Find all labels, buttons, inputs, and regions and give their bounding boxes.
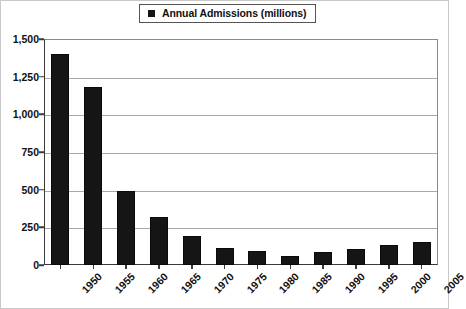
y-axis-tick-label: 0 [3,260,39,271]
x-axis-tick-label: 1970 [212,271,236,295]
bar [150,217,168,265]
y-axis-tick-label: 250 [3,222,39,233]
bar [216,248,234,265]
x-axis-tick-label: 1975 [244,271,268,295]
y-axis-tick-label: 1,500 [3,34,39,45]
bar [281,256,299,265]
x-axis-tick-label: 1995 [376,271,400,295]
x-axis-tick-label: 1965 [179,271,203,295]
x-axis-tick-label: 1960 [146,271,170,295]
y-axis-tick-label: 1,250 [3,71,39,82]
x-axis-tick-label: 1990 [343,271,367,295]
bar [314,252,332,265]
bars-layer [44,39,438,265]
x-axis-tick-label: 1955 [113,271,137,295]
bar [183,236,201,265]
y-axis-tick-label: 750 [3,147,39,158]
legend-entry-annual-admissions: Annual Admissions (millions) [148,8,306,19]
y-axis-labels: 02505007501,0001,2501,500 [1,39,39,265]
bar [84,87,102,265]
bar [248,251,266,265]
x-axis-tick-label: 1950 [80,271,104,295]
chart-legend: Annual Admissions (millions) [139,4,316,23]
bar [347,249,365,265]
x-axis-tick-label: 1980 [277,271,301,295]
bar [117,191,135,265]
x-axis-tick-label: 2005 [441,271,465,295]
legend-label: Annual Admissions (millions) [162,8,306,19]
x-axis-tick-label: 2000 [409,271,433,295]
bar [380,245,398,265]
x-axis-labels: 1950195519601965197019751980198519901995… [44,269,438,309]
bar [51,54,69,265]
bar [413,242,431,265]
x-axis-tick-label: 1985 [310,271,334,295]
legend-swatch-icon [148,10,155,17]
y-axis-tick-label: 1,000 [3,109,39,120]
y-axis-tick-label: 500 [3,184,39,195]
